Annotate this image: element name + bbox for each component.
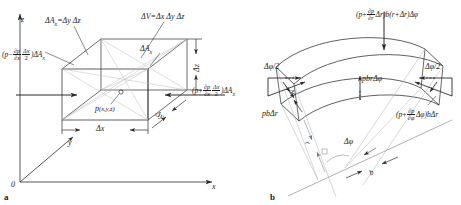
axis-label-origin: 0 — [11, 181, 15, 189]
panel-a-center-point — [119, 90, 123, 94]
label-half-angle-right: Δφ/2 — [425, 63, 440, 71]
panel-a-box-diagonals — [62, 39, 187, 120]
label-area-x-definition: ΔAx=Δy Δz — [45, 17, 81, 27]
panel-b-right-force-arrows — [415, 78, 452, 96]
label-force-bottom-right-b: (p+∂p∂φΔφ)bΔr — [396, 108, 438, 121]
label-area-face: ΔAx — [140, 45, 152, 55]
panel-b-radial-lines — [276, 49, 443, 197]
axis-label-y: y — [68, 139, 72, 147]
panel-b-top-surface — [276, 38, 443, 84]
panel-b-angle-arc — [322, 149, 349, 162]
panel-a-dim-x — [62, 120, 148, 134]
label-force-left-face-b: pbΔr — [262, 110, 278, 118]
label-delta-phi: Δφ — [344, 138, 353, 146]
diagram-vector-layer — [0, 0, 461, 205]
panel-b-leaders — [364, 96, 436, 155]
label-center-point: p(x,y,z) — [95, 105, 115, 113]
label-dim-x: Δx — [96, 125, 104, 133]
panel-b-dim-r — [304, 120, 325, 172]
label-force-right: (p+∂p∂xΔx2)ΔAx — [192, 84, 235, 97]
label-force-top-b: (p+∂p∂rΔr)b(r+Δr)Δφ — [356, 8, 418, 21]
figure-container: ΔAx=Δy Δz ΔV=Δx Δy Δz ΔAx p(x,y,z) (p−∂p… — [0, 0, 461, 205]
label-force-left: (p−∂p∂xΔx2)ΔAx — [2, 48, 45, 61]
axis-label-z: z — [21, 16, 24, 24]
panel-b-axis-line — [288, 120, 452, 196]
label-volume-definition: ΔV=Δx Δy Δz — [141, 13, 184, 21]
label-half-angle-left: Δφ/2 — [264, 63, 279, 71]
label-force-inner-face-b: pbrΔφ — [362, 75, 382, 83]
label-dim-z: Δz — [193, 64, 201, 72]
panel-caption-a: a — [4, 192, 9, 202]
axis-label-x: x — [212, 183, 216, 191]
panel-caption-b: b — [270, 192, 275, 202]
